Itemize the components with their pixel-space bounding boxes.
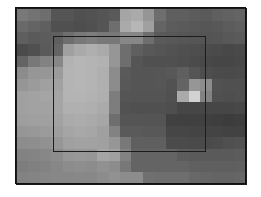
pixel-cell bbox=[17, 44, 28, 56]
pixel-cell bbox=[131, 91, 142, 103]
pixel-cell bbox=[63, 172, 74, 184]
pixel-cell bbox=[200, 149, 211, 161]
pixel-cell bbox=[120, 56, 131, 68]
pixel-cell bbox=[200, 32, 211, 44]
pixel-cell bbox=[143, 172, 154, 184]
pixel-cell bbox=[212, 114, 223, 126]
pixel-cell bbox=[97, 56, 108, 68]
pixel-cell bbox=[212, 137, 223, 149]
pixel-cell bbox=[109, 79, 120, 91]
pixel-cell bbox=[86, 44, 97, 56]
pixel-cell bbox=[166, 32, 177, 44]
pixel-cell bbox=[177, 9, 188, 21]
pixel-cell bbox=[166, 21, 177, 33]
pixel-cell bbox=[97, 79, 108, 91]
pixel-cell bbox=[40, 67, 51, 79]
pixel-cell bbox=[97, 102, 108, 114]
pixel-cell bbox=[189, 79, 200, 91]
pixel-cell bbox=[28, 79, 39, 91]
pixel-cell bbox=[63, 21, 74, 33]
pixel-cell bbox=[154, 137, 165, 149]
pixel-cell bbox=[17, 102, 28, 114]
pixel-cell bbox=[109, 114, 120, 126]
pixel-cell bbox=[120, 21, 131, 33]
pixel-cell bbox=[200, 9, 211, 21]
pixel-cell bbox=[74, 9, 85, 21]
pixel-cell bbox=[177, 161, 188, 173]
pixel-cell bbox=[235, 56, 246, 68]
pixel-cell bbox=[143, 56, 154, 68]
pixel-cell bbox=[86, 102, 97, 114]
pixel-cell bbox=[131, 172, 142, 184]
pixel-cell bbox=[17, 91, 28, 103]
pixel-cell bbox=[189, 32, 200, 44]
pixel-cell bbox=[120, 44, 131, 56]
pixel-cell bbox=[177, 149, 188, 161]
pixel-cell bbox=[166, 56, 177, 68]
pixel-cell bbox=[177, 102, 188, 114]
pixel-cell bbox=[97, 114, 108, 126]
pixel-cell bbox=[166, 137, 177, 149]
pixel-cell bbox=[223, 114, 234, 126]
pixel-cell bbox=[166, 149, 177, 161]
pixel-cell bbox=[212, 56, 223, 68]
pixel-cell bbox=[189, 161, 200, 173]
pixel-cell bbox=[109, 32, 120, 44]
pixel-cell bbox=[223, 56, 234, 68]
pixel-cell bbox=[143, 67, 154, 79]
pixel-cell bbox=[166, 67, 177, 79]
pixel-cell bbox=[86, 114, 97, 126]
pixel-cell bbox=[97, 21, 108, 33]
pixel-cell bbox=[131, 67, 142, 79]
pixel-cell bbox=[166, 114, 177, 126]
pixel-cell bbox=[17, 137, 28, 149]
pixel-cell bbox=[40, 79, 51, 91]
pixel-cell bbox=[120, 161, 131, 173]
pixel-cell bbox=[235, 102, 246, 114]
pixel-cell bbox=[120, 126, 131, 138]
pixel-cell bbox=[223, 67, 234, 79]
pixel-cell bbox=[189, 21, 200, 33]
pixel-cell bbox=[131, 32, 142, 44]
pixel-cell bbox=[40, 172, 51, 184]
pixel-cell bbox=[223, 172, 234, 184]
pixel-cell bbox=[40, 161, 51, 173]
pixel-cell bbox=[63, 114, 74, 126]
pixel-cell bbox=[28, 102, 39, 114]
pixel-cell bbox=[223, 91, 234, 103]
pixel-cell bbox=[143, 102, 154, 114]
pixel-cell bbox=[200, 126, 211, 138]
pixel-cell bbox=[200, 91, 211, 103]
pixel-cell bbox=[120, 137, 131, 149]
pixel-cell bbox=[131, 114, 142, 126]
pixel-cell bbox=[143, 32, 154, 44]
pixel-cell bbox=[28, 56, 39, 68]
pixel-cell bbox=[63, 161, 74, 173]
pixel-cell bbox=[97, 172, 108, 184]
pixel-cell bbox=[212, 9, 223, 21]
intensity-map bbox=[16, 8, 247, 185]
pixel-cell bbox=[212, 79, 223, 91]
pixel-cell bbox=[51, 114, 62, 126]
pixel-cell bbox=[223, 126, 234, 138]
pixel-cell bbox=[189, 91, 200, 103]
pixel-cell bbox=[189, 114, 200, 126]
pixel-cell bbox=[40, 56, 51, 68]
pixel-cell bbox=[212, 32, 223, 44]
pixel-cell bbox=[200, 67, 211, 79]
pixel-cell bbox=[120, 9, 131, 21]
pixel-cell bbox=[143, 21, 154, 33]
pixel-cell bbox=[223, 137, 234, 149]
pixel-cell bbox=[109, 44, 120, 56]
pixel-cell bbox=[97, 91, 108, 103]
pixel-cell bbox=[97, 149, 108, 161]
pixel-cell bbox=[154, 114, 165, 126]
pixel-cell bbox=[74, 102, 85, 114]
pixel-cell bbox=[74, 91, 85, 103]
pixel-cell bbox=[120, 67, 131, 79]
pixel-cell bbox=[51, 137, 62, 149]
pixel-cell bbox=[235, 44, 246, 56]
pixel-cell bbox=[154, 161, 165, 173]
pixel-cell bbox=[51, 32, 62, 44]
pixel-cell bbox=[143, 126, 154, 138]
